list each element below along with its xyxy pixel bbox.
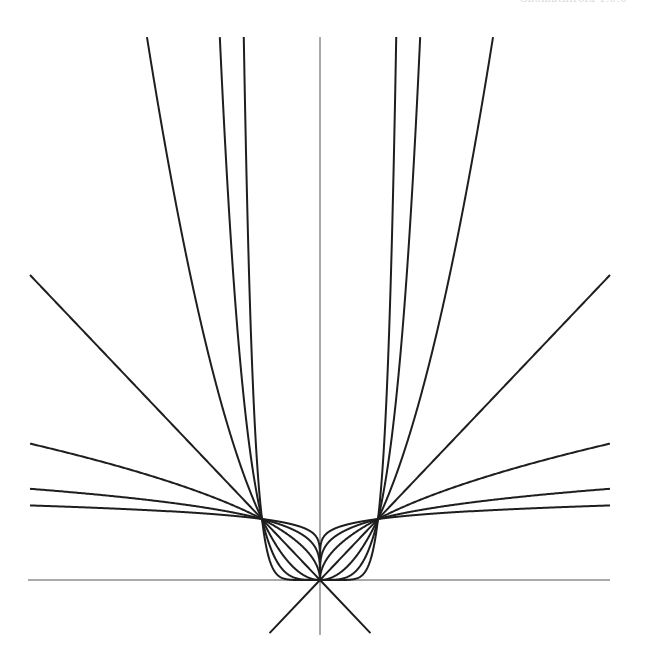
chart-plot-area xyxy=(0,0,645,671)
